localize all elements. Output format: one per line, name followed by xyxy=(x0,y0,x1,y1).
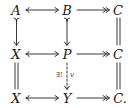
node-x-bottom: X xyxy=(11,92,20,105)
arrow-b-to-c xyxy=(77,8,110,13)
arrow-p-to-y-dashed xyxy=(65,63,70,90)
label-v: v xyxy=(70,72,74,79)
arrow-a-to-b xyxy=(26,8,59,13)
arrow-x-to-p xyxy=(26,52,59,57)
arrow-a-to-x xyxy=(14,18,19,46)
node-p: P xyxy=(63,48,72,61)
node-y: Y xyxy=(63,92,72,105)
arrow-p-to-c xyxy=(77,52,110,57)
equality-c-c-bottom xyxy=(117,63,120,89)
label-exists-unique: ∃! xyxy=(56,72,63,79)
node-a: A xyxy=(11,4,20,17)
node-c-mid: C xyxy=(113,48,123,61)
arrow-b-to-p xyxy=(65,18,70,46)
node-c-top: C xyxy=(113,4,123,17)
arrow-y-to-c xyxy=(77,96,110,101)
equality-x-x xyxy=(15,63,18,89)
node-b: B xyxy=(62,4,72,17)
equality-c-c-top xyxy=(117,18,120,45)
node-c-bottom: C. xyxy=(113,92,127,105)
node-x-mid: X xyxy=(11,48,20,61)
arrow-x-to-y xyxy=(26,96,59,101)
